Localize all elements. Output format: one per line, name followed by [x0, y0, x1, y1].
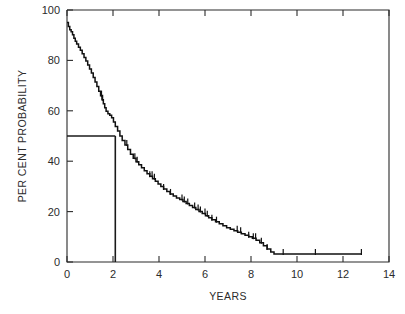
- y-axis-title: PER CENT PROBABILITY: [16, 70, 28, 203]
- x-tick-label-2: 2: [110, 268, 116, 280]
- kaplan-meier-figure: 020406080100 02468101214 YEARS PER CENT …: [0, 0, 405, 314]
- x-axis-tick-labels: 02468101214: [64, 268, 395, 280]
- median-reference-lines-group: [67, 136, 115, 262]
- x-tick-label-12: 12: [337, 268, 349, 280]
- y-tick-label-80: 80: [48, 54, 60, 66]
- y-tick-label-100: 100: [42, 4, 60, 16]
- x-tick-label-14: 14: [383, 268, 395, 280]
- y-tick-label-0: 0: [54, 256, 60, 268]
- x-tick-label-4: 4: [156, 268, 162, 280]
- chart-canvas: 020406080100 02468101214 YEARS PER CENT …: [0, 0, 405, 314]
- survival-curve-group: [67, 23, 361, 254]
- x-tick-label-0: 0: [64, 268, 70, 280]
- censoring-marks-group: [102, 91, 362, 255]
- x-tick-label-6: 6: [202, 268, 208, 280]
- x-axis-title: YEARS: [209, 290, 247, 302]
- x-tick-label-8: 8: [248, 268, 254, 280]
- y-tick-label-40: 40: [48, 155, 60, 167]
- y-tick-label-20: 20: [48, 206, 60, 218]
- survival-curve: [67, 23, 361, 254]
- y-tick-label-60: 60: [48, 105, 60, 117]
- x-tick-label-10: 10: [291, 268, 303, 280]
- y-axis-tick-labels: 020406080100: [42, 4, 60, 268]
